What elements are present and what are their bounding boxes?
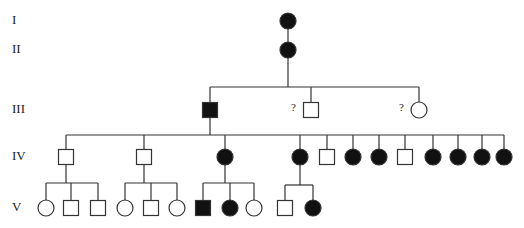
generation-label-V: V xyxy=(12,199,21,215)
male-affected-V-7 xyxy=(196,201,211,216)
pedigree-diagram xyxy=(0,0,524,228)
individuals xyxy=(38,13,512,216)
male-unaffected-IV-8 xyxy=(398,150,413,165)
generation-label-II: II xyxy=(12,41,21,57)
female-affected-IV-7 xyxy=(371,149,387,165)
male-unaffected-IV-1 xyxy=(59,150,74,165)
female-unaffected-V-6 xyxy=(169,200,185,216)
female-affected-IV-9 xyxy=(425,149,441,165)
male-unaffected-V-10 xyxy=(278,201,293,216)
unknown-status-marker: ? xyxy=(399,101,404,113)
female-affected-I-1 xyxy=(280,13,296,29)
male-unaffected-V-2 xyxy=(64,201,79,216)
male-unaffected-IV-2 xyxy=(137,150,152,165)
female-affected-V-8 xyxy=(222,200,238,216)
connector-lines xyxy=(46,21,504,208)
female-unaffected-III-3 xyxy=(411,102,427,118)
generation-label-IV: IV xyxy=(12,148,26,164)
female-affected-IV-4 xyxy=(292,149,308,165)
female-affected-V-11 xyxy=(305,200,321,216)
male-unaffected-V-5 xyxy=(144,201,159,216)
female-affected-II-1 xyxy=(280,42,296,58)
male-affected-III-1 xyxy=(203,103,218,118)
generation-label-I: I xyxy=(12,12,16,28)
female-unaffected-V-9 xyxy=(246,200,262,216)
female-affected-IV-3 xyxy=(217,149,233,165)
female-affected-IV-10 xyxy=(450,149,466,165)
female-affected-IV-6 xyxy=(345,149,361,165)
male-unaffected-III-2 xyxy=(304,103,319,118)
female-unaffected-V-1 xyxy=(38,200,54,216)
female-affected-IV-12 xyxy=(496,149,512,165)
female-affected-IV-11 xyxy=(474,149,490,165)
female-unaffected-V-4 xyxy=(117,200,133,216)
generation-label-III: III xyxy=(12,101,25,117)
male-unaffected-IV-5 xyxy=(320,150,335,165)
unknown-status-marker: ? xyxy=(291,101,296,113)
male-unaffected-V-3 xyxy=(91,201,106,216)
